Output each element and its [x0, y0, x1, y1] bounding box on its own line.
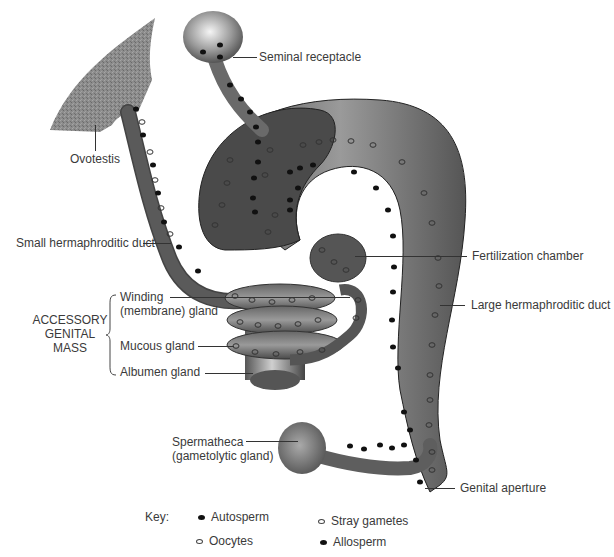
label-ovotestis: Ovotestis — [70, 152, 120, 166]
label-spermatheca: Spermatheca (gametolytic gland) — [172, 435, 273, 463]
accessory-line-1: ACCESSORY — [30, 313, 110, 327]
key-label-stray-gametes: Stray gametes — [331, 514, 408, 528]
label-accessory-genital-mass: ACCESSORY GENITAL MASS — [30, 313, 110, 355]
spermatheca-line-1: Spermatheca — [172, 435, 273, 449]
key-label-oocytes: Oocytes — [209, 534, 253, 548]
ovotestis-shape — [50, 18, 155, 132]
leader-seminal-receptacle — [233, 57, 257, 58]
leader-small-duct — [143, 243, 171, 244]
accessory-line-3: MASS — [30, 341, 110, 355]
seminal-receptacle-shape — [183, 11, 243, 63]
winding-line-2: (membrane) gland — [120, 304, 218, 318]
leader-mucous-gland — [198, 346, 234, 347]
key-item-autosperm: Autosperm — [198, 510, 269, 524]
label-fertilization-chamber: Fertilization chamber — [472, 249, 583, 263]
open-ellipse-icon — [196, 539, 203, 544]
label-mucous-gland: Mucous gland — [120, 339, 195, 353]
leader-ovotestis — [95, 125, 96, 151]
accessory-line-2: GENITAL — [30, 327, 110, 341]
leader-albumen-gland — [205, 373, 253, 374]
leader-genital-aperture — [425, 488, 455, 489]
label-winding-gland: Winding (membrane) gland — [120, 290, 218, 318]
label-small-hermaphroditic-duct: Small hermaphroditic duct — [16, 236, 155, 250]
filled-ellipse-icon — [320, 540, 327, 545]
label-albumen-gland: Albumen gland — [120, 365, 200, 379]
label-large-hermaphroditic-duct: Large hermaphroditic duct — [471, 298, 610, 312]
spermatheca-shape — [278, 422, 326, 474]
label-genital-aperture: Genital aperture — [460, 481, 546, 495]
brace-icon — [104, 293, 118, 377]
spermatheca-line-2: (gametolytic gland) — [172, 449, 273, 463]
key-label-allosperm: Allosperm — [333, 535, 386, 549]
open-ellipse-icon — [318, 519, 325, 524]
leader-large-duct — [440, 305, 465, 306]
filled-ellipse-icon — [198, 515, 205, 520]
leader-fertilization-chamber — [355, 256, 467, 257]
key-item-oocytes: Oocytes — [196, 534, 253, 548]
fertilization-chamber-shape — [310, 234, 366, 282]
leader-winding-gland — [170, 297, 350, 298]
label-seminal-receptacle: Seminal receptacle — [259, 50, 361, 64]
key-item-allosperm: Allosperm — [320, 535, 386, 549]
key-title: Key: — [145, 510, 169, 524]
reproductive-system-diagram — [0, 0, 614, 557]
leader-spermatheca — [246, 441, 298, 442]
key-item-stray-gametes: Stray gametes — [318, 514, 408, 528]
key-label-autosperm: Autosperm — [211, 510, 269, 524]
